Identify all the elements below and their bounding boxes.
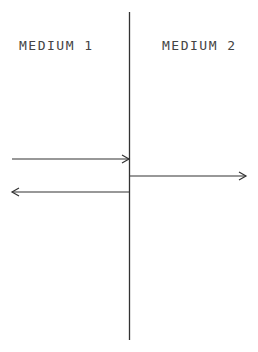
incident-arrow	[12, 155, 129, 163]
reflected-arrow	[12, 188, 129, 196]
wave-diagram	[0, 0, 258, 352]
transmitted-arrow	[130, 172, 246, 180]
